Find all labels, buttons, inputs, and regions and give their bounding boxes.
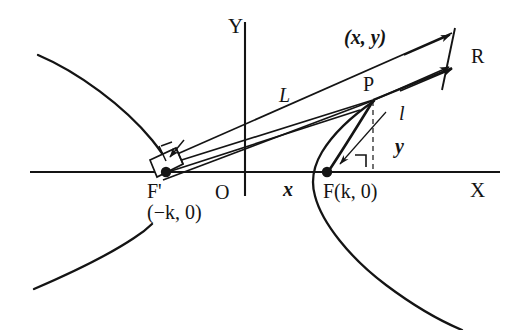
incident-beam-group [163, 33, 452, 180]
figure-canvas [0, 0, 524, 330]
focus-left-name-text: F' [147, 180, 162, 202]
right-branch [313, 101, 462, 330]
reflected-ray-thin-l [340, 112, 386, 164]
focus-right-coordinate-label: F(k, 0) [323, 181, 377, 201]
hyperbola-reflection-figure: Y X O P (x, y) L l R y x F(k, 0) F' (−k,… [0, 0, 524, 330]
left-branch-lower [34, 224, 152, 289]
beam-ray-4 [163, 101, 372, 180]
focus-left-label: F' [147, 181, 162, 201]
point-p-coordinate-label: (x, y) [344, 27, 386, 47]
focus-left-coordinate-text: (−k, 0) [147, 201, 202, 223]
hyperbola-curves [34, 55, 462, 330]
point-p-label: P [363, 74, 374, 94]
y-axis-label: Y [228, 16, 243, 37]
right-angle-mark [355, 155, 366, 167]
focus-left-dot [161, 167, 171, 177]
abscissa-label: x [283, 179, 293, 199]
beam-ray-2 [172, 100, 373, 163]
p-to-wavefront-edge [373, 68, 452, 100]
wavefront-label: R [471, 46, 484, 66]
mirror-normal-tick [161, 142, 172, 146]
x-axis-label: X [470, 180, 485, 201]
focus-right-coordinate-text: F(k, 0) [323, 180, 377, 202]
ordinate-label: y [395, 136, 404, 156]
focus-left-coordinate-label: (−k, 0) [147, 202, 202, 222]
reflected-ray-label: l [399, 103, 405, 123]
axis-group [30, 22, 500, 196]
focus-right-dot [322, 167, 332, 177]
left-branch-upper [38, 55, 170, 166]
incident-ray-label: L [279, 85, 290, 105]
origin-label: O [215, 182, 229, 202]
